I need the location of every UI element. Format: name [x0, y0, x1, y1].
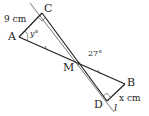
label-D: D [94, 98, 103, 111]
label-BD-length: x cm [119, 93, 141, 103]
angle-arc-A [25, 31, 28, 40]
label-A: A [7, 30, 17, 43]
label-C: C [44, 2, 52, 15]
label-M: M [63, 61, 74, 74]
label-angle-y: y° [29, 29, 39, 38]
label-B: B [127, 76, 135, 89]
label-angle-27: 27° [88, 49, 102, 58]
geometry-diagram: C A M B D l 9 cm x cm y° 27° [0, 0, 149, 116]
label-AC-length: 9 cm [4, 14, 27, 24]
label-line-l: l [114, 102, 117, 113]
